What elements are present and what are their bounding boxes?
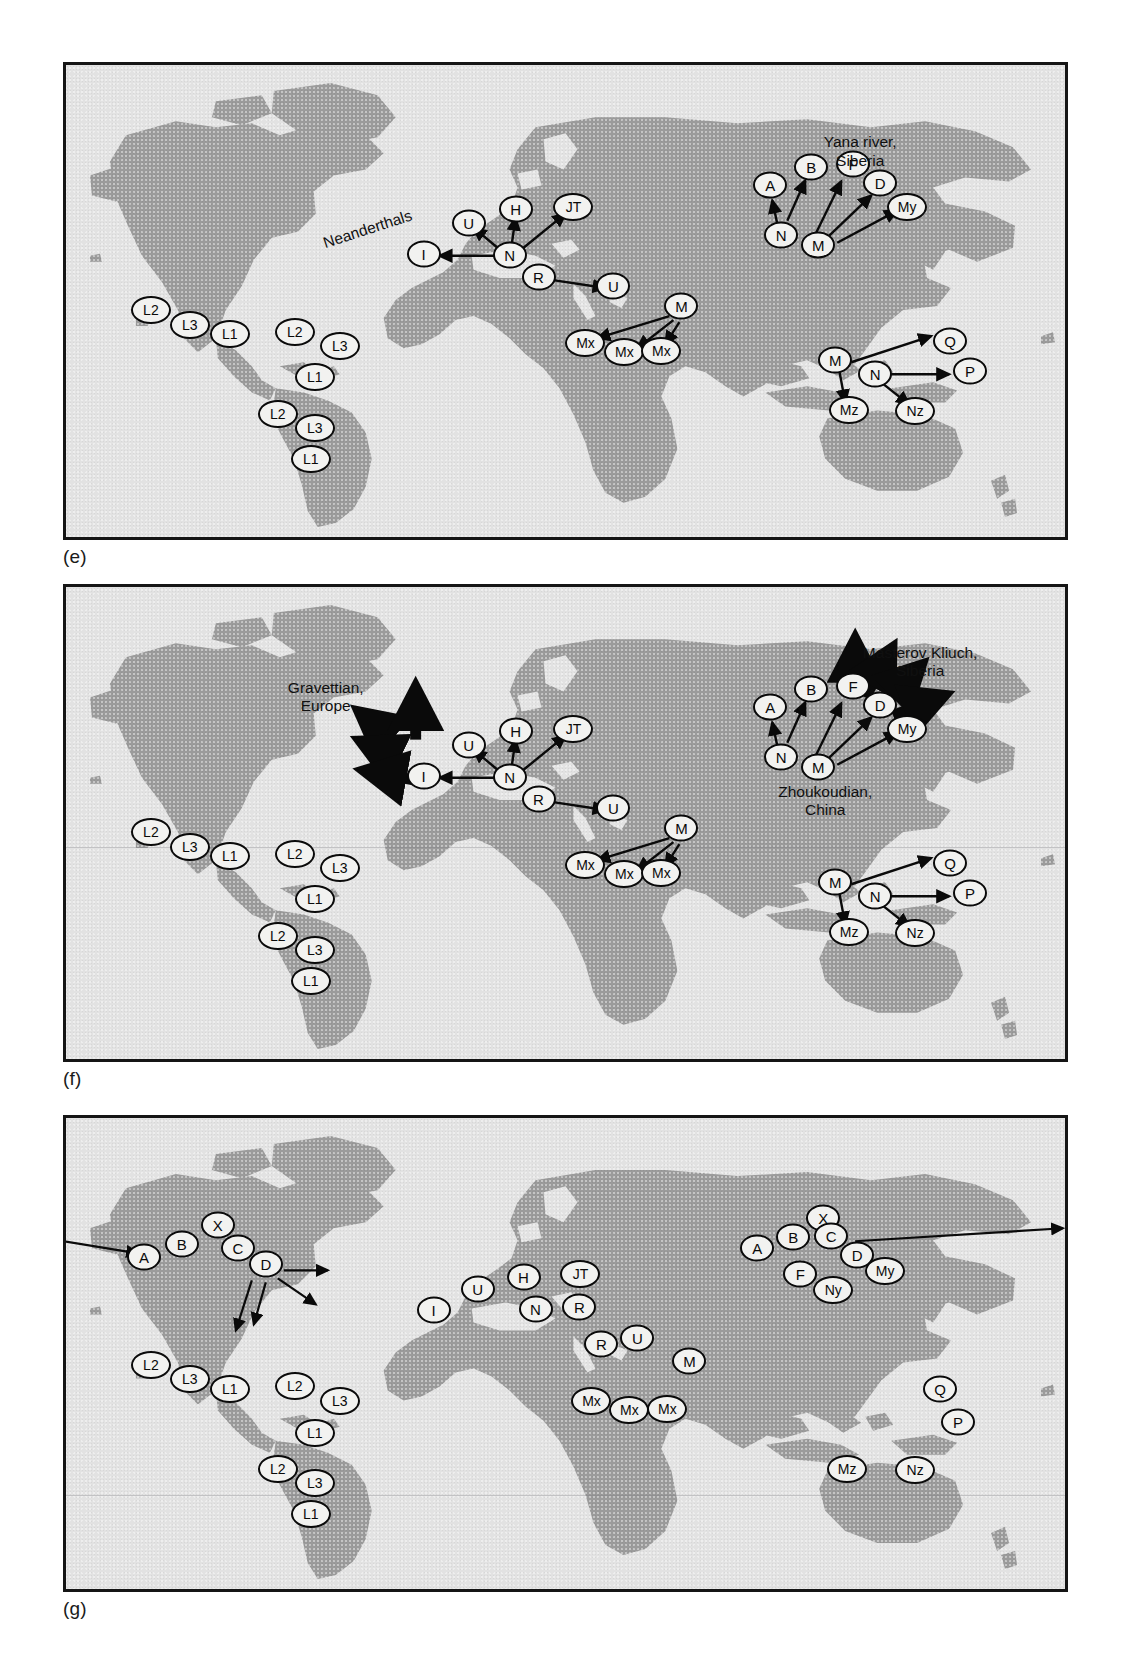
map-frame-g: ABXCDABXCDMyFNyUHJTINRRUMMxMxMxL2L3L1L2L… [63, 1115, 1068, 1592]
haplogroup-node-l2: L2 [275, 318, 315, 346]
haplogroup-node-l3: L3 [170, 1365, 210, 1393]
haplogroup-node-i: I [417, 1297, 451, 1324]
haplogroup-node-jt: JT [560, 1260, 600, 1288]
haplogroup-node-l3: L3 [320, 332, 360, 360]
haplogroup-node-m: M [818, 869, 852, 896]
haplogroup-node-mx: Mx [604, 860, 644, 888]
haplogroup-node-r: R [522, 264, 556, 291]
map-panel-e: ABFDMyNMUHJTINRUMMxMxMxL2L3L1L2L3L1L2L3L… [63, 62, 1068, 540]
panel-caption-f: (f) [63, 1068, 82, 1090]
haplogroup-node-m: M [801, 232, 835, 259]
haplogroup-node-a: A [753, 172, 787, 199]
panel-caption-e: (e) [63, 546, 87, 568]
haplogroup-node-a: A [127, 1243, 161, 1270]
haplogroup-node-nz: Nz [895, 397, 935, 425]
haplogroup-node-p: P [941, 1408, 975, 1435]
haplogroup-node-u: U [461, 1275, 495, 1302]
haplogroup-node-q: Q [933, 850, 967, 877]
haplogroup-node-n: N [764, 221, 798, 248]
haplogroup-node-d: D [863, 170, 897, 197]
haplogroup-node-l2: L2 [275, 840, 315, 868]
haplogroup-node-l2: L2 [258, 1455, 298, 1483]
haplogroup-node-b: B [776, 1223, 810, 1250]
haplogroup-node-i: I [407, 762, 441, 789]
haplogroup-node-l3: L3 [295, 936, 335, 964]
map-frame-f: ABFDMyNMUHJTINRUMMxMxMxL2L3L1L2L3L1L2L3L… [63, 584, 1068, 1062]
haplogroup-node-mx: Mx [565, 851, 605, 879]
haplogroup-node-m: M [818, 347, 852, 374]
haplogroup-node-n: N [493, 242, 527, 269]
haplogroup-node-mz: Mz [829, 396, 869, 424]
haplogroup-node-h: H [507, 1264, 541, 1291]
haplogroup-node-mx: Mx [571, 1387, 611, 1415]
haplogroup-node-l2: L2 [131, 1351, 171, 1379]
haplogroup-node-m: M [664, 814, 698, 841]
haplogroup-node-n: N [519, 1295, 553, 1322]
haplogroup-node-my: My [887, 715, 927, 743]
haplogroup-node-l3: L3 [295, 414, 335, 442]
haplogroup-node-jt: JT [553, 193, 593, 221]
world-map-g [66, 1118, 1065, 1589]
haplogroup-node-mz: Mz [829, 918, 869, 946]
haplogroup-node-m: M [664, 292, 698, 319]
map-label-gravettian-europe: Gravettian, Europe [288, 679, 364, 716]
haplogroup-node-u: U [452, 731, 486, 758]
haplogroup-node-jt: JT [553, 715, 593, 743]
haplogroup-node-l3: L3 [170, 311, 210, 339]
haplogroup-node-my: My [887, 193, 927, 221]
haplogroup-node-n: N [858, 361, 892, 388]
haplogroup-node-l2: L2 [131, 818, 171, 846]
haplogroup-node-r: R [584, 1331, 618, 1358]
haplogroup-node-l1: L1 [291, 1500, 331, 1528]
scan-artifact-g [66, 1495, 1065, 1496]
map-panel-g: ABXCDABXCDMyFNyUHJTINRRUMMxMxMxL2L3L1L2L… [63, 1115, 1068, 1592]
haplogroup-node-a: A [753, 694, 787, 721]
haplogroup-node-mx: Mx [647, 1395, 687, 1423]
haplogroup-node-i: I [407, 240, 441, 267]
haplogroup-node-l2: L2 [258, 400, 298, 428]
haplogroup-node-nz: Nz [895, 1456, 935, 1484]
map-label-zhoukoudian-china: Zhoukoudian, China [778, 783, 872, 820]
haplogroup-node-m: M [672, 1347, 706, 1374]
haplogroup-node-l3: L3 [295, 1469, 335, 1497]
haplogroup-node-b: B [165, 1231, 199, 1258]
haplogroup-node-u: U [596, 272, 630, 299]
haplogroup-node-h: H [499, 717, 533, 744]
haplogroup-node-n: N [858, 883, 892, 910]
haplogroup-node-l3: L3 [320, 1387, 360, 1415]
haplogroup-node-d: D [249, 1251, 283, 1278]
haplogroup-node-l1: L1 [291, 445, 331, 473]
haplogroup-node-l1: L1 [210, 1375, 250, 1403]
haplogroup-node-u: U [452, 209, 486, 236]
haplogroup-node-l2: L2 [131, 296, 171, 324]
haplogroup-node-l1: L1 [295, 885, 335, 913]
haplogroup-node-b: B [794, 676, 828, 703]
haplogroup-node-p: P [953, 879, 987, 906]
haplogroup-node-mz: Mz [827, 1455, 867, 1483]
figure-panels: ABFDMyNMUHJTINRUMMxMxMxL2L3L1L2L3L1L2L3L… [0, 0, 1122, 1662]
haplogroup-node-f: F [783, 1261, 817, 1288]
haplogroup-node-l3: L3 [170, 833, 210, 861]
haplogroup-node-q: Q [923, 1375, 957, 1402]
map-label-masterov-kliuch-siberia: Masterov Kliuch, Siberia [863, 644, 978, 681]
haplogroup-node-r: R [562, 1294, 596, 1321]
haplogroup-node-u: U [596, 794, 630, 821]
haplogroup-node-q: Q [933, 328, 967, 355]
map-label-yana-river-siberia: Yana river, Siberia [824, 133, 897, 170]
haplogroup-node-l1: L1 [210, 842, 250, 870]
haplogroup-node-a: A [740, 1234, 774, 1261]
haplogroup-node-mx: Mx [604, 338, 644, 366]
haplogroup-node-l1: L1 [210, 320, 250, 348]
haplogroup-node-nz: Nz [895, 919, 935, 947]
haplogroup-node-n: N [764, 743, 798, 770]
haplogroup-node-d: D [863, 692, 897, 719]
haplogroup-node-n: N [493, 764, 527, 791]
haplogroup-node-l1: L1 [291, 967, 331, 995]
haplogroup-node-p: P [953, 357, 987, 384]
haplogroup-node-my: My [865, 1257, 905, 1285]
haplogroup-node-mx: Mx [609, 1396, 649, 1424]
haplogroup-node-l3: L3 [320, 854, 360, 882]
haplogroup-node-mx: Mx [641, 337, 681, 365]
world-map-e [66, 65, 1065, 537]
haplogroup-node-u: U [620, 1325, 654, 1352]
